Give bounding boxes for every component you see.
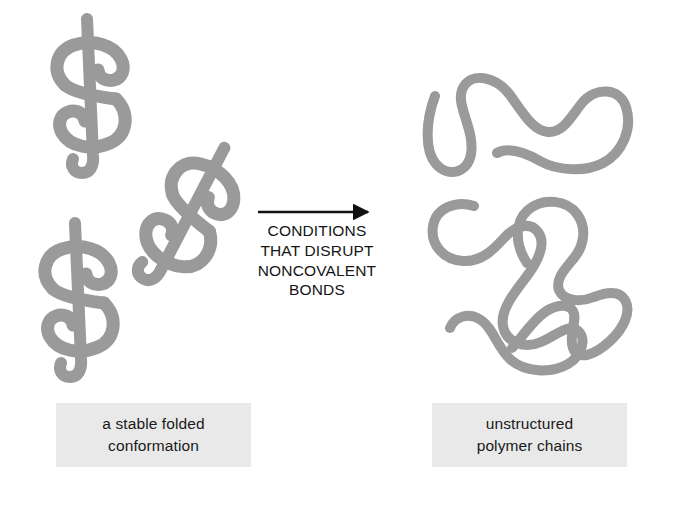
transition-condition-label: CONDITIONS THAT DISRUPT NONCOVALENT BOND… [241, 221, 393, 300]
caption-folded-conformation: a stable folded conformation [56, 403, 251, 467]
folded-protein-lower-left [45, 223, 113, 377]
caption-left-line-1: a stable folded [102, 413, 204, 435]
folded-protein-middle [121, 133, 257, 300]
folded-protein-group [45, 19, 258, 377]
caption-unstructured-chains: unstructured polymer chains [432, 403, 627, 467]
transition-label-line-1: CONDITIONS [241, 221, 393, 241]
caption-right-line-1: unstructured [486, 413, 573, 435]
transition-label-line-3: NONCOVALENT [241, 261, 393, 281]
caption-right-line-2: polymer chains [477, 435, 583, 457]
unstructured-chain-top [428, 78, 629, 172]
folded-protein-upper-left [57, 19, 125, 173]
unstructured-chain-group [428, 78, 629, 371]
protein-denaturation-figure: CONDITIONS THAT DISRUPT NONCOVALENT BOND… [0, 0, 688, 513]
caption-left-line-2: conformation [108, 435, 199, 457]
transition-label-line-2: THAT DISRUPT [241, 241, 393, 261]
transition-label-line-4: BONDS [241, 280, 393, 300]
